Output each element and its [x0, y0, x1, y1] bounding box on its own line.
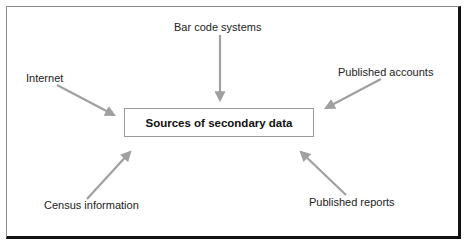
central-node-label: Sources of secondary data	[146, 117, 293, 129]
arrow-accounts	[326, 79, 381, 108]
source-label-published-accounts: Published accounts	[338, 66, 433, 78]
arrow-internet	[57, 85, 114, 115]
source-label-published-reports: Published reports	[309, 196, 395, 208]
source-label-census: Census information	[44, 199, 139, 211]
arrow-census	[87, 152, 130, 199]
central-node: Sources of secondary data	[124, 108, 314, 137]
arrow-reports	[301, 152, 346, 195]
source-label-internet: Internet	[26, 72, 63, 84]
source-label-barcode: Bar code systems	[174, 21, 261, 33]
